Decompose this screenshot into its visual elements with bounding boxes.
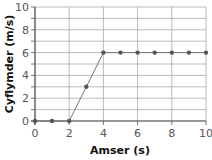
data-point-marker	[187, 50, 191, 54]
velocity-time-chart: 02468100246810 Amser (s) Cyflymder (m/s)	[0, 0, 212, 160]
x-tick-label: 4	[100, 127, 107, 140]
data-point-marker	[204, 50, 208, 54]
y-tick-label: 0	[22, 115, 29, 128]
y-tick-label: 6	[22, 47, 29, 60]
x-axis-title: Amser (s)	[90, 144, 150, 157]
data-point-marker	[67, 119, 71, 123]
y-axis-title: Cyflymder (m/s)	[3, 15, 16, 114]
y-tick-label: 4	[22, 69, 29, 82]
data-point-marker	[135, 50, 139, 54]
x-tick-label: 8	[168, 127, 175, 140]
y-tick-label: 8	[22, 24, 29, 37]
x-tick-label: 6	[134, 127, 141, 140]
tick-labels: 02468100246810	[15, 1, 212, 140]
data-point-marker	[50, 119, 54, 123]
data-point-marker	[84, 85, 88, 89]
data-point-marker	[101, 50, 105, 54]
x-tick-label: 0	[32, 127, 39, 140]
y-tick-label: 2	[22, 92, 29, 105]
data-point-marker	[33, 119, 37, 123]
data-point-marker	[153, 50, 157, 54]
data-point-marker	[118, 50, 122, 54]
axes	[31, 7, 206, 125]
grid-lines	[31, 7, 206, 125]
x-tick-label: 10	[199, 127, 212, 140]
x-tick-label: 2	[66, 127, 73, 140]
y-tick-label: 10	[15, 1, 29, 14]
data-point-marker	[170, 50, 174, 54]
